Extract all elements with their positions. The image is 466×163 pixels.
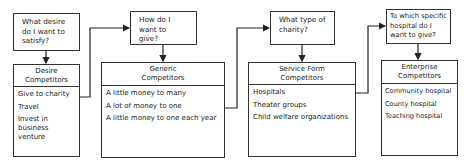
box-title: Desire Competitors (14, 65, 79, 87)
question-generic: How do I want to give? (130, 11, 197, 45)
question-enterprise: To which specific hospital do I want to … (386, 9, 451, 44)
box-desire-competitors: Desire Competitors Give to charity Trave… (13, 64, 80, 157)
list-item: Child welfare organizations (253, 113, 351, 122)
box-title: Generic Competitors (102, 63, 224, 86)
box-title: Enterprise Competitors (382, 61, 457, 84)
box-service-form-competitors: Service Form Competitors Hospitals Theat… (248, 62, 356, 157)
item-list: A little money to many A lot of money to… (102, 86, 224, 130)
list-item: Give to charity (18, 90, 75, 99)
list-item: County hospital (385, 100, 454, 109)
question-desire: What desire do I want to satisfy? (13, 13, 80, 51)
list-item: Community hospital (385, 87, 454, 96)
question-service-form: What type of charity? (270, 11, 335, 45)
item-list: Community hospital County hospital Teach… (382, 84, 457, 128)
list-item: A little money to one each year (106, 114, 220, 123)
item-list: Give to charity Travel Invest in busines… (14, 87, 79, 149)
item-list: Hospitals Theater groups Child welfare o… (249, 85, 355, 129)
list-item: Invest in business venture (18, 115, 75, 142)
box-enterprise-competitors: Enterprise Competitors Community hospita… (381, 60, 458, 156)
box-generic-competitors: Generic Competitors A little money to ma… (101, 62, 225, 158)
list-item: Theater groups (253, 101, 351, 110)
list-item: Travel (18, 103, 75, 112)
box-title: Service Form Competitors (249, 63, 355, 85)
list-item: A lot of money to one (106, 102, 220, 111)
list-item: Hospitals (253, 88, 351, 97)
list-item: Teaching hospital (385, 112, 454, 121)
list-item: A little money to many (106, 89, 220, 98)
